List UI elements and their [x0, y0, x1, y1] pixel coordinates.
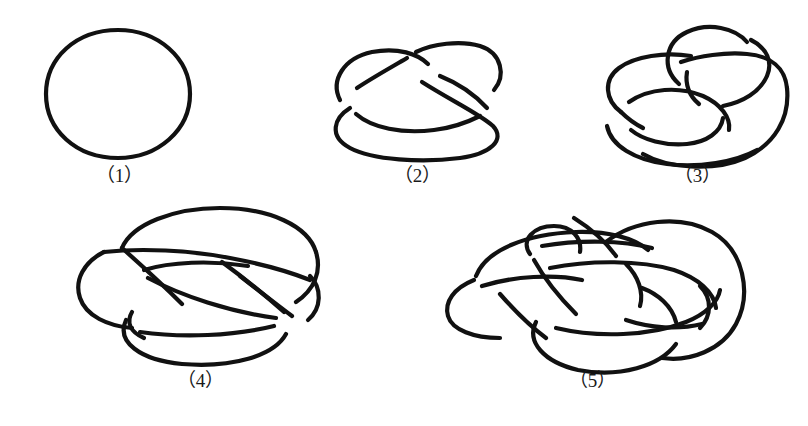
knot-label-3: （3）: [625, 160, 770, 187]
knot-figure-sheet: （1） （2）: [0, 0, 808, 426]
knot-label-4: （4）: [128, 365, 273, 392]
knot-label-5: （5）: [520, 365, 665, 392]
knot-label-2: （2）: [345, 160, 490, 187]
knot-diagram-4: [70, 200, 335, 370]
knot-diagram-2: [310, 22, 525, 167]
knot-diagram-1: [30, 18, 210, 168]
knot-diagram-5: [430, 198, 760, 376]
knot-diagram-3: [595, 14, 800, 172]
knot-label-1: （1）: [47, 160, 192, 187]
